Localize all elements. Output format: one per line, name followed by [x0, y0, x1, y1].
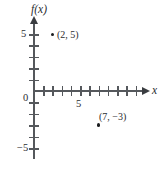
x-axis-tick — [62, 86, 64, 96]
y-axis-tick — [29, 68, 39, 70]
y-axis-tick — [29, 114, 39, 116]
x-axis-tick — [99, 86, 101, 96]
x-axis-tick — [126, 86, 128, 96]
x-axis-tick — [80, 86, 82, 96]
x-axis-tick — [43, 86, 45, 96]
y-axis-tick — [29, 57, 39, 59]
y-tick-label-minus-5: −5 — [17, 143, 28, 154]
y-axis-tick — [29, 137, 39, 139]
coordinate-plane-figure: f(x) x 0 5 −5 5 (2, 5) (7, −3) — [0, 0, 167, 170]
origin-label: 0 — [23, 93, 28, 104]
y-tick-label-5: 5 — [21, 29, 26, 40]
x-axis-tick — [89, 86, 91, 96]
x-tick-label-5: 5 — [76, 99, 81, 110]
data-point — [51, 33, 54, 36]
data-point-label: (7, −3) — [99, 112, 126, 122]
x-axis-tick — [136, 86, 138, 96]
y-axis-tick — [29, 45, 39, 47]
data-point — [97, 123, 100, 126]
y-axis-tick — [29, 102, 39, 104]
x-axis-tick — [117, 86, 119, 96]
x-axis-tick — [71, 86, 73, 96]
y-axis-tick — [29, 125, 39, 127]
x-axis-tick — [108, 86, 110, 96]
x-axis-arrow-icon — [142, 87, 150, 95]
x-axis-label: x — [152, 85, 157, 97]
y-axis-tick — [29, 148, 39, 150]
y-axis-label: f(x) — [31, 4, 47, 16]
x-axis-tick — [52, 86, 54, 96]
y-axis-arrow-icon — [30, 16, 38, 24]
y-axis-tick — [29, 80, 39, 82]
data-point-label: (2, 5) — [57, 30, 79, 40]
y-axis-tick — [29, 34, 39, 36]
